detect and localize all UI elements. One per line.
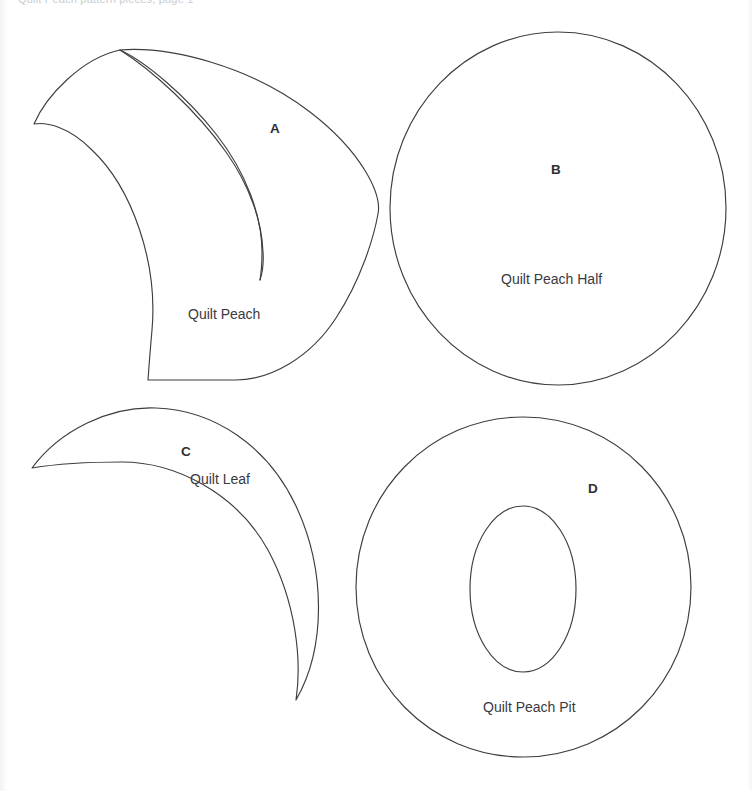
pattern-artwork — [0, 0, 752, 791]
piece-d-letter: D — [588, 481, 598, 496]
piece-a-outline — [34, 50, 378, 380]
piece-b-name: Quilt Peach Half — [501, 271, 602, 287]
piece-c-outline — [32, 408, 319, 700]
piece-d-name: Quilt Peach Pit — [483, 699, 576, 715]
piece-c-name: Quilt Leaf — [190, 471, 250, 487]
piece-a-letter: A — [270, 121, 280, 136]
piece-b-outline — [390, 32, 726, 385]
piece-a-crease — [120, 50, 262, 280]
piece-c-letter: C — [181, 444, 191, 459]
piece-d-inner-oval — [470, 506, 576, 672]
piece-b-letter: B — [551, 162, 561, 177]
piece-a-crease-second-line — [120, 50, 263, 280]
piece-a-name: Quilt Peach — [188, 306, 260, 322]
pattern-sheet: Quilt Peach pattern pieces, page 1 A Qui… — [0, 0, 752, 791]
